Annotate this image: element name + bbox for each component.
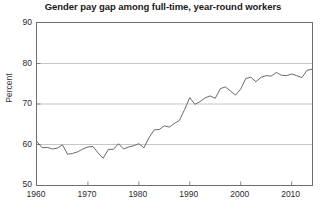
y-tick-label: 60 [2,139,32,149]
x-tick-label: 2010 [269,189,313,199]
x-axis-ticks [88,182,292,186]
y-axis-ticks [37,64,41,145]
x-tick-label: 1980 [116,189,160,199]
x-tick-label: 2000 [218,189,262,199]
page-title: Gender pay gap among full-time, year-rou… [0,1,326,12]
x-tick-label: 1960 [14,189,58,199]
plot-area [36,22,313,186]
chart-container: Gender pay gap among full-time, year-rou… [0,0,326,210]
data-line-svg [37,23,312,185]
x-tick-label: 1970 [65,189,109,199]
y-tick-label: 50 [2,179,32,189]
data-series-line [37,69,312,158]
y-tick-label: 70 [2,98,32,108]
y-tick-label: 80 [2,58,32,68]
y-tick-label: 90 [2,17,32,27]
x-tick-label: 1990 [167,189,211,199]
